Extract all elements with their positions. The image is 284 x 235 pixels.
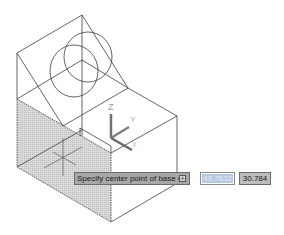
cad-model: Z Y X — [0, 0, 284, 235]
y-coordinate-input[interactable]: 30.784 — [239, 172, 271, 185]
y-coordinate-value: 30.784 — [243, 174, 267, 183]
prompt-text: Specify center point of base or — [77, 174, 185, 183]
x-axis-label: X — [132, 141, 137, 148]
selected-face[interactable] — [17, 99, 111, 222]
ucs-icon: Z Y X — [108, 102, 137, 150]
drawing-viewport[interactable]: Z Y X — [0, 0, 284, 235]
expand-options-icon[interactable]: + — [179, 175, 186, 182]
y-axis-label: Y — [130, 115, 136, 124]
x-coordinate-input[interactable]: 49.7632 — [200, 172, 235, 185]
dynamic-input-prompt: Specify center point of base or + — [74, 172, 190, 185]
x-coordinate-value: 49.7632 — [202, 174, 233, 183]
z-axis-label: Z — [108, 102, 114, 112]
